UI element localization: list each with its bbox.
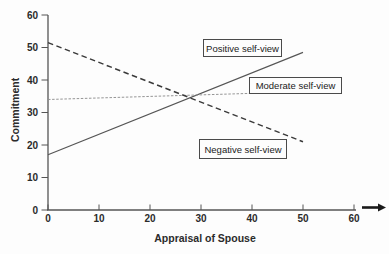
y-tick-label: 30: [16, 107, 38, 118]
series-label-positive-self-view: Positive self-view: [203, 39, 282, 57]
x-axis-title: Appraisal of Spouse: [120, 232, 290, 244]
series-label-negative-self-view: Negative self-view: [199, 139, 287, 159]
commitment-appraisal-chart: Appraisal of Spouse Commitment 010203040…: [0, 0, 389, 254]
x-tick-label: 60: [343, 213, 365, 224]
series-label-moderate-self-view: Moderate self-view: [249, 77, 342, 94]
x-tick-label: 10: [88, 213, 110, 224]
y-tick-label: 0: [16, 205, 38, 216]
x-tick-label: 0: [37, 213, 59, 224]
data-lines: [48, 43, 303, 155]
right-arrow-icon: [362, 204, 386, 212]
tick-marks: [42, 15, 355, 210]
y-tick-label: 10: [16, 172, 38, 183]
x-tick-label: 50: [292, 213, 314, 224]
y-tick-label: 40: [16, 75, 38, 86]
x-tick-label: 30: [190, 213, 212, 224]
y-tick-label: 20: [16, 140, 38, 151]
x-tick-label: 20: [139, 213, 161, 224]
y-tick-label: 50: [16, 42, 38, 53]
y-tick-label: 60: [16, 10, 38, 21]
x-tick-label: 40: [241, 213, 263, 224]
